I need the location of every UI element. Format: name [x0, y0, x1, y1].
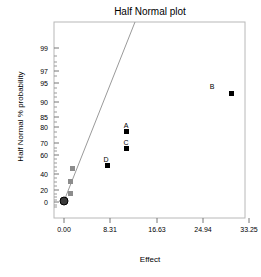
y-axis-ticks [54, 48, 59, 202]
data-point-d [105, 163, 110, 168]
reference-line [64, 22, 135, 201]
half-normal-plot-figure: Half Normal plot Half Normal % probabili… [0, 0, 261, 277]
data-point-gray [70, 166, 75, 171]
data-point-origin [60, 197, 68, 205]
plot-canvas [0, 0, 261, 277]
plot-frame [54, 22, 245, 218]
data-point-gray [68, 191, 73, 196]
data-point-a [124, 129, 129, 134]
x-axis-ticks [64, 218, 249, 223]
data-point-b [229, 91, 234, 96]
data-point-gray [68, 179, 73, 184]
data-point-c [124, 146, 129, 151]
